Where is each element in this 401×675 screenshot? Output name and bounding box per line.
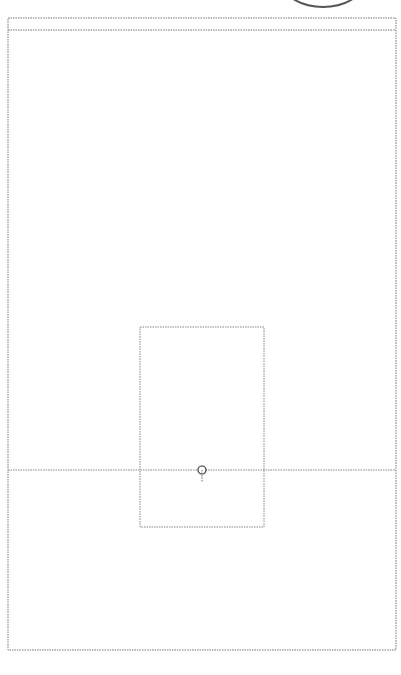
back-wall-rectangle <box>140 327 264 527</box>
perspective-drawing <box>0 0 401 675</box>
vanishing-point-marker <box>198 466 206 482</box>
outer-frame <box>8 18 396 650</box>
